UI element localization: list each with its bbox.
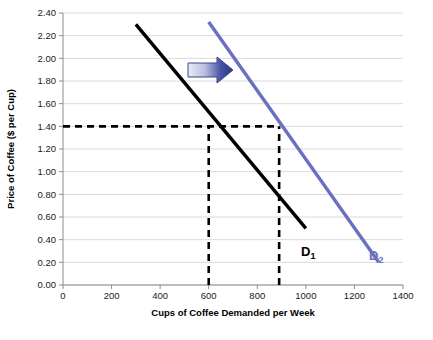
x-tick-label: 1400 bbox=[392, 290, 413, 301]
chart-background bbox=[0, 0, 433, 340]
x-tick-label: 200 bbox=[104, 290, 120, 301]
y-tick-label: 0.40 bbox=[38, 234, 57, 245]
x-tick-label: 800 bbox=[249, 290, 265, 301]
y-tick-label: 1.80 bbox=[38, 75, 57, 86]
x-axis-title: Cups of Coffee Demanded per Week bbox=[151, 307, 315, 318]
demand-shift-chart: 0.000.200.400.600.801.001.201.401.601.80… bbox=[0, 0, 433, 340]
x-tick-label: 1000 bbox=[295, 290, 316, 301]
x-tick-label: 0 bbox=[60, 290, 65, 301]
x-tick-label: 600 bbox=[201, 290, 217, 301]
y-tick-label: 0.00 bbox=[38, 279, 57, 290]
y-tick-label: 0.20 bbox=[38, 257, 57, 268]
y-axis-title: Price of Coffee ($ per Cup) bbox=[5, 89, 16, 209]
y-tick-label: 1.20 bbox=[38, 143, 57, 154]
y-tick-label: 2.40 bbox=[38, 7, 57, 18]
y-tick-label: 1.00 bbox=[38, 166, 57, 177]
y-tick-label: 2.00 bbox=[38, 53, 57, 64]
x-tick-label: 1200 bbox=[344, 290, 365, 301]
y-tick-label: 2.20 bbox=[38, 30, 57, 41]
chart-figure: 0.000.200.400.600.801.001.201.401.601.80… bbox=[0, 0, 433, 340]
y-tick-label: 0.80 bbox=[38, 189, 57, 200]
y-tick-label: 1.60 bbox=[38, 98, 57, 109]
y-tick-label: 0.60 bbox=[38, 211, 57, 222]
x-tick-label: 400 bbox=[152, 290, 168, 301]
y-tick-label: 1.40 bbox=[38, 121, 57, 132]
